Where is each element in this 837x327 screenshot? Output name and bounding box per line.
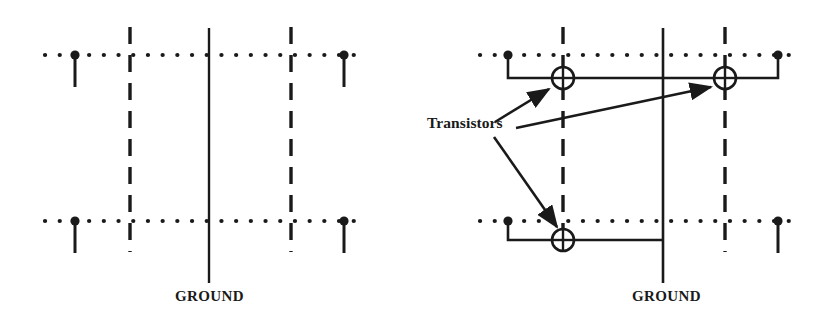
pin-dot [70,216,79,225]
transistor-t1-top-left[interactable] [552,67,574,89]
transistors-annotation-label: Transistors [427,114,503,132]
pin-dot [773,50,782,59]
pin-dot [339,50,348,59]
diagram-canvas: GROUND GROUND Transistors [0,0,837,327]
transistor-t3-bottom-left[interactable] [552,229,574,251]
pin-dot [503,216,512,225]
pin-bottom-left-right-panel [503,216,512,225]
pin-dot [773,216,782,225]
pin-dot [70,50,79,59]
pin-dot [503,50,512,59]
schematic-vector-layer [0,0,837,327]
canvas-background [0,0,837,327]
transistor-t2-top-right[interactable] [714,67,736,89]
pin-dot [339,216,348,225]
pin-top-right-right-panel [773,50,782,59]
ground-label-right-panel: GROUND [632,288,701,305]
ground-label-left-panel: GROUND [175,288,244,305]
pin-top-left-right-panel [503,50,512,59]
